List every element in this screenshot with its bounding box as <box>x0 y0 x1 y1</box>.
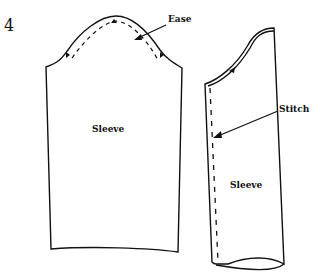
stitch-arrowhead <box>213 131 222 138</box>
left-sleeve-piece <box>46 16 182 252</box>
sleeve-label-right: Sleeve <box>230 180 262 190</box>
ease-arrow <box>138 25 166 38</box>
stitch-arrow <box>218 111 278 136</box>
sleeve-diagram <box>0 0 320 276</box>
step-number: 4 <box>4 16 14 35</box>
ease-arrowhead <box>134 34 142 40</box>
stitch-label: Stitch <box>279 104 309 114</box>
ease-stitch-line <box>72 21 158 60</box>
ease-label: Ease <box>168 14 191 24</box>
sleeve-label-left: Sleeve <box>92 124 124 134</box>
notch-left <box>66 52 70 58</box>
